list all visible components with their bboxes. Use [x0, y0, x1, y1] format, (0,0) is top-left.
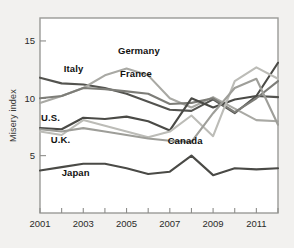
y-axis-label: Misery index [8, 89, 18, 142]
series-label-france: France [120, 68, 152, 79]
misery-index-line-chart: 51015 200120032005200720092011 ItalyGerm… [0, 0, 294, 248]
series-label-germany: Germany [118, 45, 161, 56]
series-label-uk: U.K. [51, 134, 70, 145]
y-tick-label: 10 [24, 93, 35, 104]
y-tick-label: 15 [24, 35, 35, 46]
x-tick-label: 2005 [116, 218, 137, 229]
x-tick-label: 2001 [29, 218, 50, 229]
chart-figure: 51015 200120032005200720092011 ItalyGerm… [0, 0, 294, 248]
x-tick-label: 2007 [159, 218, 180, 229]
series-label-canada: Canada [168, 135, 204, 146]
x-tick-label: 2009 [203, 218, 224, 229]
series-label-japan: Japan [62, 167, 90, 178]
x-tick-label: 2003 [73, 218, 94, 229]
series-label-us: U.S. [41, 112, 60, 123]
x-tick-label: 2011 [246, 218, 266, 229]
series-label-italy: Italy [64, 63, 84, 74]
y-axis-label-text: Misery index [8, 89, 18, 142]
y-tick-label: 5 [30, 150, 35, 161]
figure-footnote [2, 242, 292, 248]
